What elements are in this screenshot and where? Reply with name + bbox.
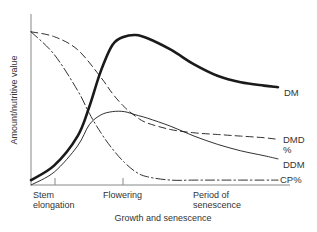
chart: StemelongationFloweringPeriod ofsenescen… bbox=[0, 0, 317, 232]
x-tick-label: Period of bbox=[193, 190, 230, 200]
x-ticks bbox=[55, 178, 123, 185]
y-axis-title: Amount/nutritive value bbox=[9, 55, 19, 144]
series-curves bbox=[31, 32, 278, 185]
x-tick-label: Flowering bbox=[103, 190, 142, 200]
x-tick-label: senescence bbox=[193, 200, 241, 210]
x-tick-label: elongation bbox=[33, 200, 75, 210]
x-tick-labels: StemelongationFloweringPeriod ofsenescen… bbox=[33, 190, 241, 210]
series-label: DM bbox=[284, 87, 299, 98]
x-tick-label: Stem bbox=[33, 190, 54, 200]
series-label: DDM bbox=[283, 159, 305, 170]
series-line-dmd-pct bbox=[31, 32, 278, 140]
series-label: CP% bbox=[280, 174, 302, 185]
series-label: % bbox=[283, 144, 292, 155]
x-axis-title: Growth and senescence bbox=[114, 213, 211, 223]
series-labels: DMDMD%DDMCP% bbox=[280, 87, 305, 185]
